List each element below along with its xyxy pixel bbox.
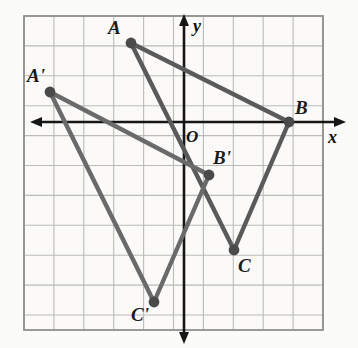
vertex-A [126, 38, 137, 49]
origin-label: O [186, 128, 198, 145]
point-label-A: A [108, 18, 121, 37]
x-axis-label: x [328, 128, 337, 146]
coordinate-geometry-figure: A B C A' B' C' y x O [0, 0, 358, 348]
vertex-C [229, 245, 240, 256]
vertex-B-prime [204, 170, 215, 181]
point-label-B: B [295, 98, 308, 117]
y-axis-label: y [193, 17, 201, 35]
point-label-C: C [238, 256, 251, 275]
vertex-B [284, 117, 295, 128]
figure-canvas [0, 0, 358, 348]
vertex-A-prime [45, 87, 56, 98]
point-label-B-prime: B' [213, 148, 231, 167]
point-label-A-prime: A' [27, 66, 45, 85]
point-label-C-prime: C' [131, 305, 149, 324]
vertex-C-prime [149, 297, 160, 308]
